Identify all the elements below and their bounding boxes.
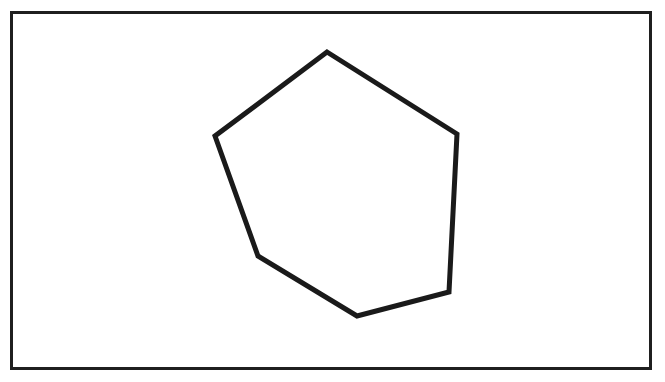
hexagon-shape xyxy=(215,52,457,316)
diagram-canvas xyxy=(0,0,665,382)
